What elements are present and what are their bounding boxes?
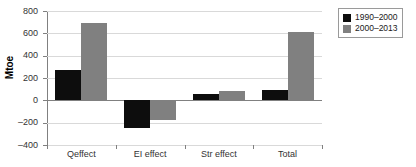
bar [193,94,219,101]
x-tick-label: EI effect [115,150,185,159]
gridline [47,123,322,124]
y-tick-label: 400 [0,51,38,60]
gridline [47,11,322,12]
bar-chart: Mtoe 8006004002000–200–400 QeffectEI eff… [0,0,416,167]
y-tick-label: –400 [0,141,38,150]
legend-item[interactable]: 1990–2000 [343,12,398,23]
legend-swatch-icon [343,25,351,33]
legend-swatch-icon [343,14,351,22]
y-tick-label: –200 [0,118,38,127]
x-tick-mark [322,145,323,149]
bar [150,100,176,120]
y-tick-mark [43,78,47,79]
bar [81,23,107,100]
y-tick-label: 600 [0,29,38,38]
plot-area [47,11,322,145]
legend-label: 1990–2000 [355,13,398,22]
x-tick-mark [185,145,186,149]
legend-label: 2000–2013 [355,24,398,33]
x-tick-mark [253,145,254,149]
y-tick-mark [43,100,47,101]
bar [55,70,81,100]
zero-line [47,100,322,101]
x-tick-label: Total [253,150,323,159]
legend: 1990–2000 2000–2013 [338,8,403,38]
y-tick-mark [43,123,47,124]
bar [219,91,245,100]
bar [262,90,288,100]
x-tick-mark [116,145,117,149]
y-tick-mark [43,11,47,12]
bar [124,100,150,128]
y-tick-mark [43,56,47,57]
y-tick-label: 200 [0,74,38,83]
y-tick-label: 0 [0,96,38,105]
bar [288,32,314,100]
y-tick-mark [43,33,47,34]
legend-item[interactable]: 2000–2013 [343,23,398,34]
x-tick-label: Str effect [184,150,254,159]
x-tick-mark [47,145,48,149]
y-tick-label: 800 [0,7,38,16]
x-tick-label: Qeffect [46,150,116,159]
